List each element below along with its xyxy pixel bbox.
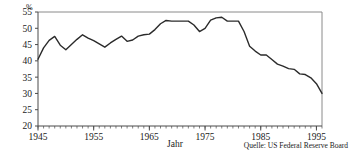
x-tick-label: 1975 [196,132,215,142]
x-tick-label: 1955 [84,132,103,142]
line-chart: 2025303540455055 19451955196519751985199… [0,0,350,152]
y-tick-label: 50 [23,24,33,34]
y-tick-label: 40 [23,56,33,66]
y-tick-label: 25 [23,105,33,115]
chart-background [0,0,350,152]
y-axis-unit-label: % [26,3,33,12]
y-tick-label: 35 [23,73,33,83]
x-axis-title: Jahr [167,139,184,149]
y-tick-label: 20 [23,121,33,131]
y-tick-label: 45 [23,40,33,50]
x-tick-label: 1945 [29,132,48,142]
chart-container: 2025303540455055 19451955196519751985199… [0,0,350,152]
y-tick-label: 30 [23,89,33,99]
source-note: Quelle: US Federal Reserve Board [244,141,348,150]
x-tick-label: 1965 [140,132,159,142]
